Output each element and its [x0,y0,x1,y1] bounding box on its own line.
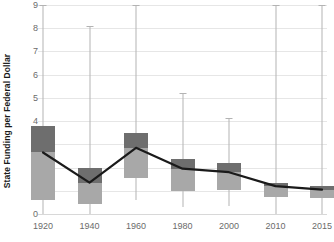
gridline [38,28,327,29]
box-lower-1920 [31,152,55,200]
x-tick-label-2015: 2015 [312,221,332,231]
x-tick-label-1980: 1980 [172,221,192,231]
box-upper-1940 [78,168,102,183]
box-lower-1940 [78,183,102,204]
box-lower-1980 [171,169,195,191]
x-tick-label-2000: 2000 [219,221,239,231]
box-lower-2015 [310,190,334,198]
whisker-cap-top-1960 [133,5,140,6]
whisker-cap-top-1940 [86,26,93,27]
x-tick-label-2010: 2010 [265,221,285,231]
box-upper-1980 [171,159,195,168]
box-upper-1920 [31,126,55,153]
whisker-cap-top-2010 [272,5,279,6]
whisker-2000 [229,118,230,206]
whisker-cap-top-1920 [40,5,47,6]
whisker-cap-top-2015 [319,5,326,6]
whisker-cap-top-1980 [179,93,186,94]
gridline [38,5,327,6]
x-tick-label-1940: 1940 [79,221,99,231]
gridline [38,75,327,76]
box-lower-2010 [264,186,288,196]
whisker-cap-top-2000 [226,118,233,119]
box-upper-1960 [124,133,148,148]
x-tick-label-1920: 1920 [33,221,53,231]
axis-baseline [38,214,327,215]
x-tick-label-1960: 1960 [126,221,146,231]
box-upper-2000 [217,163,241,172]
gridline [38,51,327,52]
whisker-2015 [322,5,323,214]
box-lower-2000 [217,172,241,189]
box-lower-1960 [124,148,148,178]
